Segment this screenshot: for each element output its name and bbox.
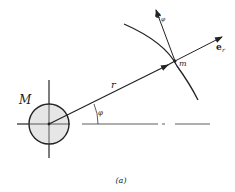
orbital-diagram: M m r φ e φ e r (a) — [0, 0, 235, 192]
orbiting-mass-point — [174, 60, 177, 63]
figure-caption: (a) — [115, 176, 126, 185]
label-e-phi: e φ — [155, 10, 166, 23]
radial-unit-vector — [175, 37, 222, 61]
label-phi: φ — [98, 109, 103, 117]
svg-text:φ: φ — [161, 15, 166, 23]
svg-text:r: r — [222, 46, 226, 53]
orbit-arc — [124, 24, 198, 100]
label-e-r: e r — [216, 42, 226, 53]
label-r: r — [111, 79, 117, 90]
label-M: M — [18, 93, 32, 107]
radius-vector — [49, 65, 168, 124]
label-m: m — [179, 59, 187, 68]
